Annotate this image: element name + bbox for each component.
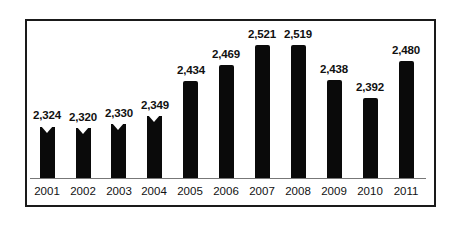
- bar-notch: [148, 115, 160, 122]
- bar-2008: [291, 45, 306, 178]
- bar-notch: [112, 123, 124, 130]
- value-label-2011: 2,480: [381, 44, 431, 56]
- value-label-2005: 2,434: [166, 64, 216, 76]
- category-label-2003: 2003: [99, 185, 139, 197]
- bar-2006: [219, 65, 234, 178]
- category-label-2002: 2002: [63, 185, 103, 197]
- value-label-2006: 2,469: [201, 48, 251, 60]
- x-axis-baseline: [30, 178, 426, 179]
- bar-notch: [77, 127, 89, 134]
- bar-2007: [255, 45, 270, 178]
- bar-2009: [327, 80, 342, 178]
- category-label-2001: 2001: [27, 185, 67, 197]
- bar-2010: [363, 98, 378, 178]
- bar-2011: [399, 61, 414, 178]
- bar-2005: [183, 81, 198, 178]
- bar-notch: [41, 126, 53, 133]
- category-label-2009: 2009: [314, 185, 354, 197]
- value-label-2004: 2,349: [130, 99, 180, 111]
- category-label-2004: 2004: [134, 185, 174, 197]
- bar-2002: [76, 128, 91, 178]
- category-label-2010: 2010: [350, 185, 390, 197]
- bar-2003: [111, 124, 126, 178]
- bar-2001: [40, 127, 55, 178]
- category-label-2005: 2005: [170, 185, 210, 197]
- category-label-2011: 2011: [386, 185, 426, 197]
- category-label-2006: 2006: [206, 185, 246, 197]
- value-label-2008: 2,519: [273, 28, 323, 40]
- category-label-2008: 2008: [278, 185, 318, 197]
- category-label-2007: 2007: [242, 185, 282, 197]
- value-label-2010: 2,392: [345, 81, 395, 93]
- value-label-2009: 2,438: [309, 63, 359, 75]
- bar-2004: [147, 116, 162, 178]
